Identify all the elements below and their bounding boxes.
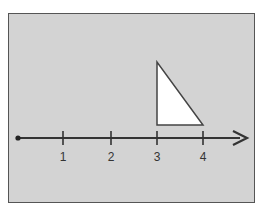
origin-dot — [15, 135, 20, 140]
tick-label-3: 3 — [154, 150, 161, 164]
tick-label-4: 4 — [200, 150, 207, 164]
number-line-diagram — [0, 0, 260, 212]
tick-label-1: 1 — [60, 150, 67, 164]
tick-label-2: 2 — [108, 150, 115, 164]
right-triangle — [157, 62, 203, 125]
